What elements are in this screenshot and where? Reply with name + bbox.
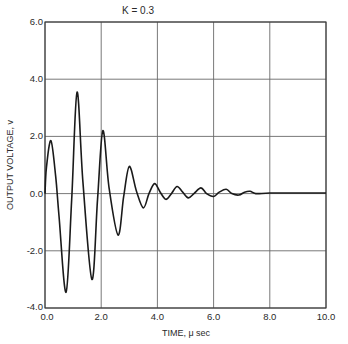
x-tick-label: 0.0 bbox=[40, 311, 53, 322]
plot-frame bbox=[45, 22, 326, 308]
x-tick-label: 8.0 bbox=[263, 311, 276, 322]
x-tick-label: 6.0 bbox=[207, 311, 220, 322]
x-tick-label: 2.0 bbox=[95, 311, 108, 322]
x-axis-label: TIME, μ sec bbox=[162, 328, 211, 338]
x-tick-labels: 0.02.04.06.08.010.0 bbox=[40, 311, 335, 322]
y-tick-label: -2.0 bbox=[27, 245, 43, 256]
grid-lines bbox=[45, 22, 326, 308]
chart: -4.0-2.00.02.04.06.0 0.02.04.06.08.010.0… bbox=[0, 0, 348, 344]
x-tick-label: 4.0 bbox=[151, 311, 164, 322]
x-tick-label: 10.0 bbox=[317, 311, 336, 322]
y-tick-label: 2.0 bbox=[30, 130, 43, 141]
y-axis-label: OUTPUT VOLTAGE, v bbox=[5, 119, 15, 210]
y-tick-label: 0.0 bbox=[30, 188, 43, 199]
chart-title: K = 0.3 bbox=[122, 5, 154, 16]
y-tick-label: 6.0 bbox=[30, 16, 43, 27]
y-tick-labels: -4.0-2.00.02.04.06.0 bbox=[27, 16, 43, 312]
y-tick-label: 4.0 bbox=[30, 73, 43, 84]
output-voltage-curve bbox=[45, 92, 326, 292]
